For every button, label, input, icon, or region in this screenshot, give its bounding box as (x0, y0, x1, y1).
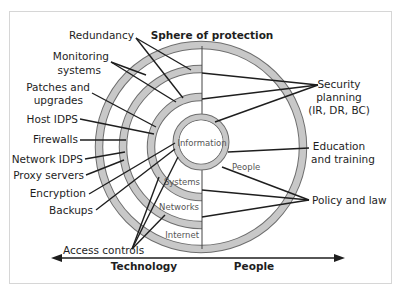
people-axis-label: People (234, 260, 274, 272)
policy-law-label: Policy and law (312, 194, 387, 206)
diagram-title: Sphere of protection (151, 29, 274, 41)
internet-label: Internet (165, 230, 199, 240)
education-label-2: and training (311, 153, 375, 165)
arrow-right-icon (334, 254, 345, 262)
networks-label: Networks (159, 202, 199, 212)
firewalls-label: Firewalls (33, 133, 78, 145)
redundancy-label: Redundancy (69, 29, 134, 41)
backups-label: Backups (49, 204, 93, 216)
security-planning-label-2: planning (316, 91, 362, 103)
technology-axis-label: Technology (111, 260, 178, 272)
patches-label-1: Patches and (26, 81, 90, 93)
arrow-left-icon (51, 254, 62, 262)
monitoring-label-2: systems (58, 64, 101, 76)
network-idps-label: Network IDPS (12, 153, 84, 165)
security-planning-label-1: Security (317, 78, 360, 90)
access-controls-label: Access controls (63, 244, 144, 256)
education-label-1: Education (313, 140, 365, 152)
security-planning-label-3: (IR, DR, BC) (308, 104, 370, 116)
information-label: Information (177, 138, 226, 148)
host-idps-label: Host IDPS (27, 113, 79, 125)
sphere-of-protection-diagram: Sphere of protection Information People … (0, 0, 396, 293)
people-region-label: People (232, 162, 260, 172)
monitoring-label-1: Monitoring (53, 50, 109, 62)
systems-label: Systems (164, 177, 201, 187)
patches-label-2: upgrades (34, 94, 83, 106)
encryption-label: Encryption (30, 187, 86, 199)
proxy-servers-label: Proxy servers (13, 169, 84, 181)
